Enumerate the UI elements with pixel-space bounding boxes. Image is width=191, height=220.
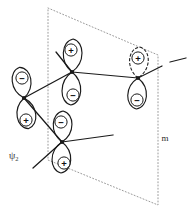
p-orbital-upper-middle-top-phase-sign: + — [65, 44, 77, 56]
bond-network — [24, 72, 138, 142]
bond-upper-to-right — [72, 72, 138, 78]
substituent-lines — [33, 52, 186, 168]
wavefunction-subscript: 2 — [15, 154, 18, 161]
mirror-plane-label: m — [161, 133, 168, 143]
wavefunction-label: ψ2 — [9, 150, 19, 162]
orbital-node-upper-middle — [70, 70, 74, 74]
p-orbital-right-bottom-phase-sign: − — [131, 94, 143, 106]
p-orbital-lower-middle-top-phase-sign: − — [55, 116, 67, 128]
p-orbital-upper-middle-bottom-phase-sign: − — [67, 89, 79, 101]
orbital-diagram-canvas: −++−−++− m ψ2 — [0, 0, 191, 220]
atom-center-set — [22, 70, 140, 144]
p-orbital-lower-middle-bottom-sign-glyph: + — [61, 158, 67, 169]
p-orbital-upper-middle-bottom-sign-glyph: − — [70, 90, 76, 101]
p-orbital-left-bottom-phase-sign: + — [20, 114, 32, 126]
p-orbital-left-top-phase-sign: − — [16, 72, 28, 84]
substituent-right-outer — [170, 58, 186, 62]
substituent-lower-right — [62, 135, 113, 142]
orbital-node-right — [136, 76, 140, 80]
p-orbital-left-bottom-sign-glyph: + — [23, 115, 29, 126]
p-orbital-right-top-phase-sign: + — [132, 52, 144, 64]
orbital-node-left — [22, 96, 26, 100]
orbital-diagram-figure: −++−−++− m ψ2 — [0, 0, 191, 220]
p-orbital-lower-middle-top-sign-glyph: − — [58, 117, 64, 128]
orbital-node-lower-middle — [60, 140, 64, 144]
p-orbital-right-top-sign-glyph: + — [135, 53, 141, 64]
p-orbital-left-top-sign-glyph: − — [19, 73, 25, 84]
p-orbital-right-bottom-sign-glyph: − — [134, 95, 140, 106]
p-orbital-lower-middle-bottom-phase-sign: + — [58, 157, 70, 169]
p-orbital-upper-middle-top-sign-glyph: + — [68, 45, 74, 56]
